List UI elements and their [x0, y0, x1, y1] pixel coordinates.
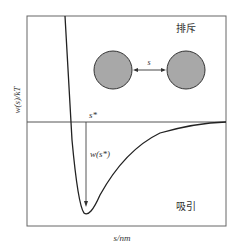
separation-label: s: [147, 58, 150, 67]
attraction-label: 吸引: [176, 201, 196, 212]
left-particle: [94, 51, 132, 89]
plot-frame: [27, 16, 226, 226]
well-depth-label: w(s*): [90, 149, 110, 159]
arrow-left-icon: [133, 68, 138, 72]
equilibrium-distance-label: s*: [89, 110, 98, 120]
x-axis-label: s/nm: [113, 233, 131, 243]
well-depth-arrow-icon: [84, 201, 88, 207]
repulsion-label: 排斥: [176, 22, 196, 34]
potential-diagram: s 排斥 吸引 s* w(s*) w(s)/kT s/nm: [0, 0, 240, 251]
right-particle: [167, 51, 205, 89]
y-axis-label: w(s)/kT: [12, 86, 22, 114]
arrow-right-icon: [161, 68, 166, 72]
